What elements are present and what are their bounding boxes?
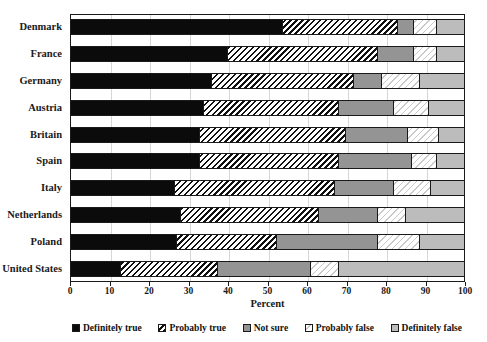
y-axis-label-denmark: Denmark <box>19 19 62 35</box>
x-tick-label-70: 70 <box>342 286 352 296</box>
bar-segment-netherlands-definitely-true <box>70 207 181 223</box>
bar-segment-germany-not-sure <box>354 73 382 89</box>
x-tick-label-30: 30 <box>184 286 194 296</box>
bar-segment-britain-definitely-true <box>70 127 200 143</box>
x-axis-ticks: 0102030405060708090100 <box>70 282 465 296</box>
bar-segment-britain-definitely-false <box>439 127 465 143</box>
x-tick-label-60: 60 <box>302 286 312 296</box>
x-tick-label-80: 80 <box>381 286 391 296</box>
bar-row-denmark <box>70 19 465 35</box>
bar-segment-denmark-probably-true <box>283 19 398 35</box>
bar-segment-united-states-not-sure <box>218 261 311 277</box>
bar-segment-netherlands-probably-false <box>378 207 406 223</box>
bar-row-italy <box>70 180 465 196</box>
bar-segment-netherlands-definitely-false <box>406 207 465 223</box>
bar-segment-united-states-definitely-true <box>70 261 121 277</box>
legend-swatch-probably-true <box>158 324 166 332</box>
y-axis-label-germany: Germany <box>19 73 62 89</box>
bar-segment-france-probably-true <box>228 46 378 62</box>
y-axis-label-netherlands: Netherlands <box>7 207 62 223</box>
bar-segment-germany-probably-false <box>382 73 420 89</box>
y-axis-label-austria: Austria <box>28 100 62 116</box>
legend-label-definitely-false: Definitely false <box>402 323 462 333</box>
bar-segment-poland-definitely-false <box>420 234 465 250</box>
bar-segment-poland-probably-true <box>177 234 278 250</box>
bar-segment-germany-probably-true <box>212 73 354 89</box>
x-tick-label-100: 100 <box>458 286 472 296</box>
bar-segment-spain-definitely-true <box>70 153 200 169</box>
x-tick-label-0: 0 <box>68 286 73 296</box>
bar-segment-united-states-probably-true <box>121 261 218 277</box>
bar-segment-spain-probably-true <box>200 153 338 169</box>
legend-label-definitely-true: Definitely true <box>83 323 142 333</box>
x-tick-label-50: 50 <box>263 286 273 296</box>
bar-segment-poland-probably-false <box>378 234 419 250</box>
bar-segment-united-states-probably-false <box>311 261 339 277</box>
bar-segment-austria-definitely-false <box>429 100 465 116</box>
bar-segment-italy-definitely-true <box>70 180 175 196</box>
bar-row-france <box>70 46 465 62</box>
legend-label-probably-true: Probably true <box>169 323 226 333</box>
x-tick-label-20: 20 <box>144 286 154 296</box>
bar-segment-poland-not-sure <box>277 234 378 250</box>
bar-segment-italy-probably-true <box>175 180 335 196</box>
legend-item-probably-true[interactable]: Probably true <box>158 323 226 333</box>
stacked-bar-chart: DenmarkFranceGermanyAustriaBritainSpainI… <box>0 0 487 342</box>
y-axis-label-italy: Italy <box>41 180 62 196</box>
chart-legend: Definitely trueProbably trueNot sureProb… <box>72 320 462 336</box>
bar-segment-france-definitely-false <box>437 46 465 62</box>
bar-segment-denmark-definitely-true <box>70 19 283 35</box>
bar-rows <box>70 14 465 282</box>
bar-segment-austria-not-sure <box>339 100 394 116</box>
bar-segment-britain-probably-true <box>200 127 346 143</box>
bar-segment-germany-definitely-true <box>70 73 212 89</box>
bar-segment-britain-not-sure <box>346 127 407 143</box>
bar-segment-spain-probably-false <box>412 153 438 169</box>
y-axis-labels: DenmarkFranceGermanyAustriaBritainSpainI… <box>0 14 66 282</box>
x-tick-label-10: 10 <box>105 286 115 296</box>
legend-swatch-not-sure <box>243 324 251 332</box>
bar-segment-austria-probably-false <box>394 100 430 116</box>
x-tick-label-40: 40 <box>223 286 233 296</box>
bar-segment-austria-definitely-true <box>70 100 204 116</box>
bar-row-netherlands <box>70 207 465 223</box>
x-axis-title: Percent <box>70 298 465 309</box>
bar-segment-germany-definitely-false <box>420 73 465 89</box>
bar-segment-denmark-definitely-false <box>437 19 465 35</box>
y-axis-label-poland: Poland <box>30 234 62 250</box>
bar-row-spain <box>70 153 465 169</box>
bar-segment-poland-definitely-true <box>70 234 177 250</box>
y-axis-label-united-states: United States <box>2 261 62 277</box>
bar-segment-united-states-definitely-false <box>339 261 465 277</box>
legend-item-definitely-true[interactable]: Definitely true <box>72 323 142 333</box>
bar-segment-france-definitely-true <box>70 46 228 62</box>
bar-segment-italy-probably-false <box>394 180 432 196</box>
bar-row-united-states <box>70 261 465 277</box>
legend-item-definitely-false[interactable]: Definitely false <box>391 323 462 333</box>
legend-item-probably-false[interactable]: Probably false <box>305 323 374 333</box>
bar-segment-netherlands-probably-true <box>181 207 319 223</box>
legend-swatch-definitely-true <box>72 324 80 332</box>
legend-swatch-definitely-false <box>391 324 399 332</box>
bar-row-poland <box>70 234 465 250</box>
y-axis-label-britain: Britain <box>30 127 62 143</box>
bar-segment-denmark-not-sure <box>398 19 414 35</box>
bar-segment-france-probably-false <box>414 46 438 62</box>
legend-label-not-sure: Not sure <box>254 323 288 333</box>
bar-segment-netherlands-not-sure <box>319 207 378 223</box>
legend-label-probably-false: Probably false <box>316 323 374 333</box>
bar-segment-france-not-sure <box>378 46 414 62</box>
y-axis-label-france: France <box>31 46 63 62</box>
y-axis-label-spain: Spain <box>36 153 62 169</box>
chart-title-clipped <box>70 0 410 3</box>
bar-segment-austria-probably-true <box>204 100 338 116</box>
bar-segment-italy-definitely-false <box>431 180 465 196</box>
legend-swatch-probably-false <box>305 324 313 332</box>
legend-item-not-sure[interactable]: Not sure <box>243 323 288 333</box>
bar-segment-spain-definitely-false <box>437 153 465 169</box>
bar-row-germany <box>70 73 465 89</box>
bar-segment-denmark-probably-false <box>414 19 438 35</box>
x-tick-label-90: 90 <box>421 286 431 296</box>
bar-segment-italy-not-sure <box>335 180 394 196</box>
bar-segment-britain-probably-false <box>408 127 440 143</box>
